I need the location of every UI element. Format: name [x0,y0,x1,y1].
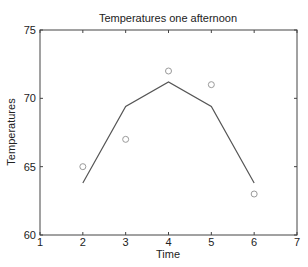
chart-title: Temperatures one afternoon [99,12,237,24]
x-axis: 1234567 [37,30,300,248]
x-tick-label: 1 [37,236,43,248]
y-tick-label: 75 [24,24,36,36]
data-point-marker [123,136,129,142]
x-tick-label: 4 [165,236,171,248]
x-tick-label: 3 [123,236,129,248]
x-tick-label: 2 [80,236,86,248]
y-tick-label: 60 [24,229,36,241]
y-tick-label: 70 [24,92,36,104]
data-point-marker [208,82,214,88]
data-point-marker [251,191,257,197]
chart: Temperatures one afternoon 1234567 60657… [0,0,308,267]
x-axis-label: Time [156,248,180,260]
x-tick-label: 7 [294,236,300,248]
fit-line [83,82,254,183]
y-tick-label: 65 [24,161,36,173]
y-axis: 60657075 [24,24,297,241]
x-tick-label: 5 [208,236,214,248]
data-point-marker [166,68,172,74]
data-point-marker [80,164,86,170]
plot-frame [40,30,297,235]
plot-series [80,68,257,197]
x-tick-label: 6 [251,236,257,248]
y-axis-label: Temperatures [5,98,17,166]
